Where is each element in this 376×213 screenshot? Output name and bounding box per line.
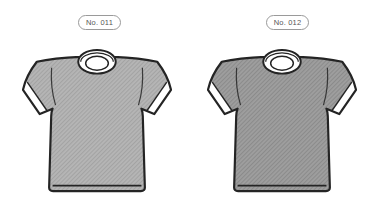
item-number-label-1: No. 011: [86, 19, 113, 27]
collar-inner: [271, 56, 294, 70]
tshirt-illustration-1: [22, 45, 172, 195]
tshirt-item-2: No. 012: [188, 0, 376, 213]
tshirt-item-1: No. 011: [0, 0, 188, 213]
tshirt-illustration-2: [207, 45, 357, 195]
collar-inner: [86, 56, 109, 70]
tshirt-body: [208, 56, 356, 191]
catalog-canvas: No. 011: [0, 0, 376, 213]
tshirt-body: [23, 56, 171, 191]
item-number-label-2: No. 012: [274, 19, 302, 27]
item-number-tag-2: No. 012: [266, 15, 309, 30]
item-number-tag-1: No. 011: [78, 15, 121, 30]
